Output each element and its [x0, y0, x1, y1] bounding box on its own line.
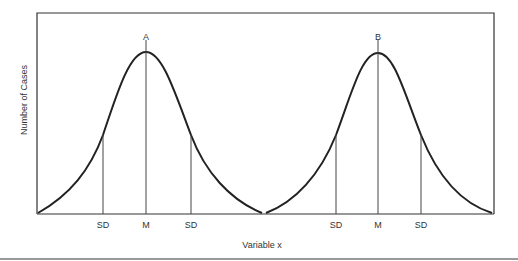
- curve-a: [38, 52, 262, 213]
- a-sd-right-label: SD: [185, 220, 198, 230]
- curve-b: [266, 53, 492, 213]
- b-sd-left-label: SD: [330, 220, 343, 230]
- b-mean-label: M: [374, 220, 382, 230]
- plot-frame: [37, 13, 494, 214]
- a-mean-label: M: [142, 220, 150, 230]
- normal-curves-diagram: A B SD M SD SD M SD Variable x Number of…: [0, 0, 518, 261]
- curve-b-label: B: [375, 32, 381, 42]
- curve-a-label: A: [143, 32, 149, 42]
- b-sd-right-label: SD: [415, 220, 428, 230]
- y-axis-label: Number of Cases: [19, 64, 29, 135]
- bottom-rule: [0, 258, 518, 260]
- x-axis-label: Variable x: [242, 240, 282, 250]
- a-sd-left-label: SD: [97, 220, 110, 230]
